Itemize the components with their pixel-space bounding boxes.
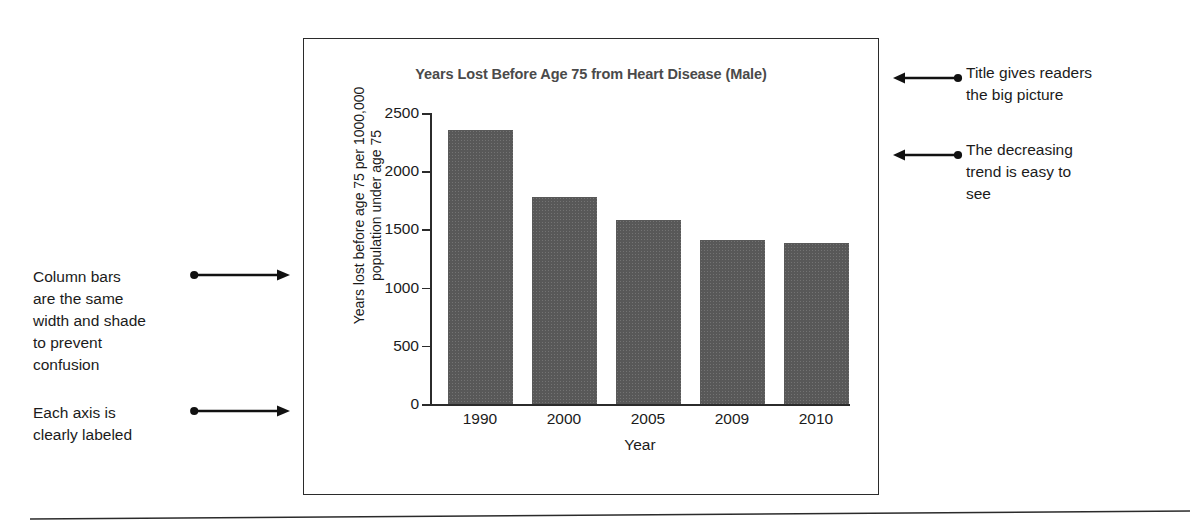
- annotation-line: Title gives readers: [966, 62, 1092, 84]
- annotation-each-axis: Each axis is clearly labeled: [33, 402, 132, 446]
- annotation-line: Column bars: [33, 266, 146, 288]
- x-tick-label: 2005: [616, 410, 681, 428]
- x-tick-label: 2009: [700, 410, 765, 428]
- x-axis-title: Year: [430, 436, 850, 454]
- y-tick-label: 2500: [385, 104, 419, 122]
- callout-arrow-column-bars: [190, 268, 290, 282]
- x-tick-label: 1990: [448, 410, 513, 428]
- x-tick-label: 2000: [532, 410, 597, 428]
- page-bottom-rule: [30, 508, 1190, 522]
- callout-arrow-trend: [893, 148, 963, 162]
- y-axis-title-line-2: population under age 75: [368, 56, 385, 356]
- x-axis-spine: [430, 404, 850, 406]
- figure-box: Years Lost Before Age 75 from Heart Dise…: [303, 38, 879, 495]
- bar-2009: [700, 240, 765, 404]
- annotation-line: to prevent: [33, 332, 146, 354]
- y-tick-mark: [422, 229, 430, 231]
- annotation-line: trend is easy to: [966, 161, 1073, 183]
- annotation-line: Each axis is: [33, 402, 132, 424]
- y-axis-title-line-1: Years lost before age 75 per 1000,000: [351, 56, 368, 356]
- y-tick-label: 500: [393, 337, 419, 355]
- chart-title: Years Lost Before Age 75 from Heart Dise…: [304, 66, 878, 82]
- annotation-line: clearly labeled: [33, 424, 132, 446]
- y-tick-mark: [422, 288, 430, 290]
- x-tick-label: 2010: [784, 410, 849, 428]
- y-tick-label: 2000: [385, 162, 419, 180]
- y-tick-label: 1500: [385, 220, 419, 238]
- bar-1990: [448, 130, 513, 404]
- annotation-line: are the same: [33, 288, 146, 310]
- y-tick-mark: [422, 346, 430, 348]
- y-tick-mark: [422, 113, 430, 115]
- annotation-line: see: [966, 183, 1073, 205]
- bar-2000: [532, 197, 597, 404]
- annotation-column-bars: Column bars are the same width and shade…: [33, 266, 146, 376]
- annotation-line: the big picture: [966, 84, 1092, 106]
- plot-area: 25002000150010005000 1990200020052009201…: [430, 113, 850, 404]
- y-axis-spine: [430, 113, 432, 404]
- annotation-line: confusion: [33, 354, 146, 376]
- bar-2010: [784, 243, 849, 404]
- annotation-line: The decreasing: [966, 139, 1073, 161]
- y-tick-label: 0: [410, 395, 419, 413]
- y-tick-mark: [422, 171, 430, 173]
- annotation-title-gives-readers: Title gives readers the big picture: [966, 62, 1092, 106]
- callout-arrow-title: [893, 71, 963, 85]
- callout-arrow-each-axis: [190, 404, 290, 418]
- y-tick-label: 1000: [385, 279, 419, 297]
- bar-2005: [616, 220, 681, 404]
- y-axis-title: Years lost before age 75 per 1000,000 po…: [351, 56, 384, 356]
- annotation-line: width and shade: [33, 310, 146, 332]
- annotation-decreasing-trend: The decreasing trend is easy to see: [966, 139, 1073, 205]
- y-tick-mark: [422, 404, 430, 406]
